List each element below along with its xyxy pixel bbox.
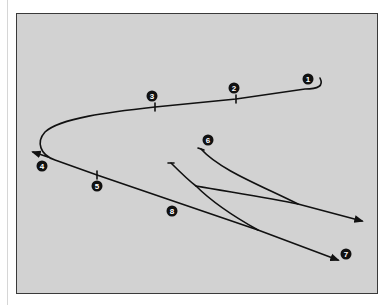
marker-7: 7 xyxy=(341,249,352,260)
route-branch-line xyxy=(171,163,258,230)
marker-5: 5 xyxy=(92,181,103,192)
tick-6 xyxy=(198,148,204,150)
route-branch-right xyxy=(196,186,362,221)
route-lines xyxy=(0,0,390,305)
marker-2: 2 xyxy=(229,83,240,94)
marker-1: 1 xyxy=(303,74,314,85)
main-route-line xyxy=(40,78,338,260)
marker-3: 3 xyxy=(147,91,158,102)
marker-8: 8 xyxy=(167,206,178,217)
marker-6: 6 xyxy=(203,135,214,146)
marker-4: 4 xyxy=(37,161,48,172)
